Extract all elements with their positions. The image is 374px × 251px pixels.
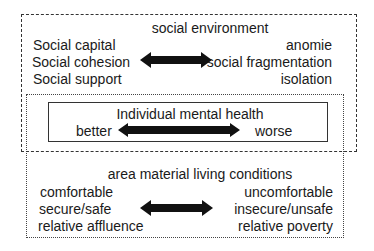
mental-health-worse: worse [255,123,292,139]
social-positive-item: Social cohesion [32,54,130,70]
material-positive-item: relative affluence [38,218,144,234]
social-positive-item: Social capital [33,37,116,53]
double-headed-arrow-icon [140,200,213,216]
social-environment-title: social environment [120,20,300,36]
double-headed-arrow-icon [118,123,240,137]
material-conditions-title: area material living conditions [90,166,310,182]
social-negative-item: isolation [180,71,332,87]
material-positive-item: secure/safe [39,201,111,217]
double-headed-arrow-icon [140,52,212,68]
mental-health-title: Individual mental health [100,106,280,122]
social-negative-item: anomie [180,37,332,53]
social-positive-item: Social support [33,71,122,87]
material-negative-item: uncomfortable [180,184,333,200]
material-positive-item: comfortable [40,184,113,200]
mental-health-better: better [76,123,112,139]
material-negative-item: relative poverty [180,218,333,234]
